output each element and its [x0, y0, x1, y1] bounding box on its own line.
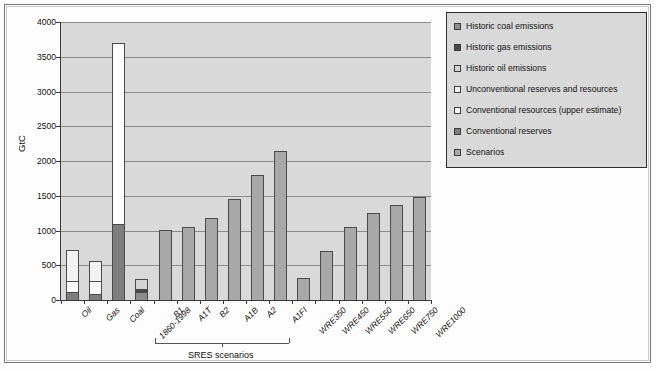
- bar-segment: [67, 281, 78, 292]
- x-axis-tick: [200, 300, 201, 304]
- x-axis-tick: [431, 300, 432, 304]
- legend-item-label: Scenarios: [466, 148, 504, 157]
- bar-a1b[interactable]: [228, 199, 241, 300]
- y-axis-tick: [56, 231, 61, 232]
- bar-segment: [321, 251, 332, 300]
- x-axis-tick: [84, 300, 85, 304]
- legend-item[interactable]: Conventional reserves: [454, 127, 552, 136]
- bar-a1fi[interactable]: [274, 151, 287, 300]
- bar-wre1000[interactable]: [413, 197, 426, 300]
- bar-b1[interactable]: [159, 230, 172, 300]
- x-axis-tick: [61, 300, 62, 304]
- x-axis-tick: [315, 300, 316, 304]
- legend-item-label: Historic oil emissions: [466, 64, 546, 73]
- y-axis-tick-label: 4000: [37, 17, 56, 27]
- bar-segment: [391, 205, 402, 300]
- bar-a1t[interactable]: [182, 227, 195, 300]
- x-axis-tick: [339, 300, 340, 304]
- bar-segment: [90, 261, 101, 281]
- legend-item[interactable]: Conventional resources (upper estimate): [454, 106, 621, 115]
- bar-segment: [183, 227, 194, 300]
- x-axis-tick: [177, 300, 178, 304]
- brace-segment: [289, 338, 290, 343]
- bar-wre650[interactable]: [367, 213, 380, 300]
- legend-swatch-icon: [454, 23, 461, 30]
- legend-swatch-icon: [454, 128, 461, 135]
- bar-segment: [90, 281, 101, 294]
- legend-item[interactable]: Historic coal emissions: [454, 22, 553, 31]
- bar-segment: [206, 218, 217, 300]
- y-axis-tick-label: 3500: [37, 52, 56, 62]
- bar-b2[interactable]: [205, 218, 218, 300]
- bar-segment: [275, 151, 286, 300]
- bar-segment: [160, 230, 171, 300]
- x-axis-tick: [385, 300, 386, 304]
- brace-segment: [222, 343, 223, 347]
- x-axis-tick: [154, 300, 155, 304]
- bar-coal[interactable]: [112, 43, 125, 300]
- legend-swatch-icon: [454, 149, 461, 156]
- x-axis-tick: [223, 300, 224, 304]
- x-axis-tick: [362, 300, 363, 304]
- legend-item-label: Historic gas emissions: [466, 43, 551, 52]
- bar-segment: [113, 43, 124, 224]
- legend-item-label: Conventional resources (upper estimate): [466, 106, 621, 115]
- y-axis-tick: [56, 92, 61, 93]
- legend-item[interactable]: Unconventional reserves and resources: [454, 85, 617, 94]
- legend-swatch-icon: [454, 44, 461, 51]
- legend-item[interactable]: Historic oil emissions: [454, 64, 546, 73]
- y-axis-tick: [56, 161, 61, 162]
- bar-wre450[interactable]: [320, 251, 333, 300]
- legend-item-label: Conventional reserves: [466, 127, 552, 136]
- legend-item-label: Historic coal emissions: [466, 22, 553, 31]
- y-axis-tick-label: 1500: [37, 191, 56, 201]
- y-axis-tick: [56, 22, 61, 23]
- bar-segment: [136, 279, 147, 289]
- chart-figure: GtC 05001000150020002500300035004000 Oil…: [0, 0, 657, 373]
- bar-segment: [414, 197, 425, 300]
- plot-area: [60, 22, 431, 301]
- x-axis-tick: [292, 300, 293, 304]
- y-axis-tick-label: 500: [42, 260, 56, 270]
- legend-item[interactable]: Historic gas emissions: [454, 43, 551, 52]
- x-axis-tick: [130, 300, 131, 304]
- bar-gas[interactable]: [89, 261, 102, 300]
- x-axis-tick: [408, 300, 409, 304]
- bar-wre350[interactable]: [297, 278, 310, 300]
- bar-segment: [90, 294, 101, 300]
- bar-segment: [136, 292, 147, 300]
- y-axis-tick-label: 1000: [37, 226, 56, 236]
- legend-item[interactable]: Scenarios: [454, 148, 504, 157]
- bar-wre750[interactable]: [390, 205, 403, 300]
- x-axis-tick: [246, 300, 247, 304]
- y-axis-tick: [56, 57, 61, 58]
- y-axis-tick-label: 2000: [37, 156, 56, 166]
- bar-wre550[interactable]: [344, 227, 357, 300]
- x-axis-tick: [107, 300, 108, 304]
- gridline: [61, 22, 431, 23]
- y-axis-tick: [56, 196, 61, 197]
- x-axis-tick: [269, 300, 270, 304]
- chart-legend: Historic coal emissionsHistoric gas emis…: [446, 12, 647, 168]
- brace-segment: [155, 338, 156, 343]
- bar-segment: [67, 250, 78, 281]
- bar-segment: [345, 227, 356, 300]
- bar-segment: [229, 199, 240, 300]
- y-axis-tick-label: 2500: [37, 121, 56, 131]
- legend-swatch-icon: [454, 107, 461, 114]
- bar-segment: [368, 213, 379, 300]
- y-axis-tick-label: 3000: [37, 87, 56, 97]
- sres-brace-label: SRES scenarios: [188, 350, 254, 360]
- bar-segment: [113, 224, 124, 300]
- bar-segment: [67, 292, 78, 300]
- legend-item-label: Unconventional reserves and resources: [466, 85, 617, 94]
- y-axis-tick-labels: 05001000150020002500300035004000: [0, 0, 56, 300]
- bar-1860-1998[interactable]: [135, 279, 148, 300]
- legend-swatch-icon: [454, 86, 461, 93]
- bar-segment: [298, 278, 309, 300]
- y-axis-tick: [56, 265, 61, 266]
- legend-swatch-icon: [454, 65, 461, 72]
- bar-segment: [252, 175, 263, 300]
- bar-a2[interactable]: [251, 175, 264, 300]
- bar-oil[interactable]: [66, 250, 79, 300]
